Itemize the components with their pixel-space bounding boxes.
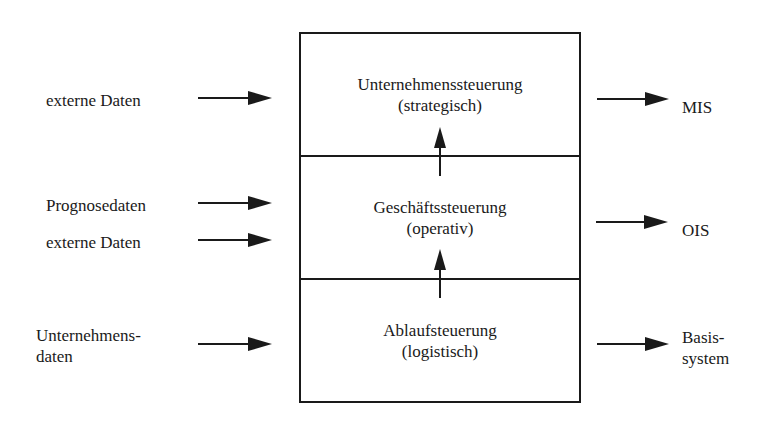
arrow-up-logistic-to-operative xyxy=(434,249,446,298)
input-label-externe-daten-operative: externe Daten xyxy=(46,232,141,253)
layer-operative-title: Geschäftssteuerung xyxy=(300,197,580,218)
output-arrow-ois xyxy=(596,215,668,229)
input-label-unternehmensdaten: Unternehmens- daten xyxy=(36,325,141,367)
output-label-basissystem-line2: system xyxy=(682,348,729,369)
input-label-externe-daten-strategic: externe Daten xyxy=(46,90,141,111)
output-label-basissystem-line1: Basis- xyxy=(682,327,729,348)
layer-logistic-subtitle: (logistisch) xyxy=(300,341,580,362)
input-label-prognosedaten: Prognosedaten xyxy=(46,195,146,216)
output-arrow-mis xyxy=(597,92,669,106)
input-label-unternehmensdaten-line1: Unternehmens- xyxy=(36,325,141,346)
layer-strategic-title: Unternehmenssteuerung xyxy=(300,74,580,95)
layer-strategic-label: Unternehmenssteuerung (strategisch) xyxy=(300,74,580,116)
output-arrow-basissystem xyxy=(597,337,669,351)
input-arrow-prognosedaten xyxy=(198,196,272,210)
layer-operative-label: Geschäftssteuerung (operativ) xyxy=(300,197,580,239)
output-label-basissystem: Basis- system xyxy=(682,327,729,369)
output-label-ois: OIS xyxy=(682,220,709,241)
input-label-unternehmensdaten-line2: daten xyxy=(36,346,141,367)
arrow-up-operative-to-strategic xyxy=(434,127,446,176)
input-arrow-externe-daten-strategic xyxy=(198,91,272,105)
layer-logistic-label: Ablaufsteuerung (logistisch) xyxy=(300,320,580,362)
layer-operative-subtitle: (operativ) xyxy=(300,218,580,239)
output-label-mis: MIS xyxy=(682,97,712,118)
layer-strategic-subtitle: (strategisch) xyxy=(300,95,580,116)
layer-logistic-title: Ablaufsteuerung xyxy=(300,320,580,341)
input-arrow-externe-daten-operative xyxy=(198,233,272,247)
input-arrow-unternehmensdaten xyxy=(198,337,272,351)
